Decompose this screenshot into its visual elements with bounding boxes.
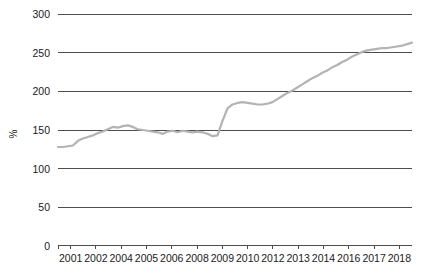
x-tick-label: 2013 bbox=[287, 252, 310, 264]
y-tick-label: 200 bbox=[0, 86, 50, 96]
data-series-line bbox=[58, 14, 412, 246]
x-tick-label: 2009 bbox=[211, 252, 234, 264]
x-tick-label: 2001 bbox=[59, 252, 82, 264]
series-path bbox=[58, 43, 412, 147]
x-tick-label: 2018 bbox=[388, 252, 411, 264]
x-tick-label: 2010 bbox=[236, 252, 259, 264]
y-tick-label: 50 bbox=[0, 202, 50, 212]
y-tick-label: 100 bbox=[0, 164, 50, 174]
x-tick-label: 2005 bbox=[135, 252, 158, 264]
x-tick-label: 2008 bbox=[185, 252, 208, 264]
x-tick-label: 2006 bbox=[160, 252, 183, 264]
x-tick-label: 2012 bbox=[261, 252, 284, 264]
y-tick-label: 250 bbox=[0, 48, 50, 58]
plot-area bbox=[58, 14, 412, 246]
x-axis-line-and-ticks bbox=[58, 245, 412, 251]
x-axis: 2001200220042005200620082009201020122013… bbox=[58, 245, 412, 275]
y-tick-label: 150 bbox=[0, 125, 50, 135]
x-tick-label: 2017 bbox=[362, 252, 385, 264]
line-chart: % 050100150200250300 2001200220042005200… bbox=[0, 0, 430, 275]
x-tick-label: 2014 bbox=[312, 252, 335, 264]
y-tick-label: 300 bbox=[0, 9, 50, 19]
y-tick-label: 0 bbox=[0, 241, 50, 251]
x-tick-label: 2004 bbox=[110, 252, 133, 264]
y-axis-tick-labels: 050100150200250300 bbox=[0, 0, 50, 275]
x-tick-label: 2002 bbox=[84, 252, 107, 264]
x-tick-label: 2016 bbox=[337, 252, 360, 264]
